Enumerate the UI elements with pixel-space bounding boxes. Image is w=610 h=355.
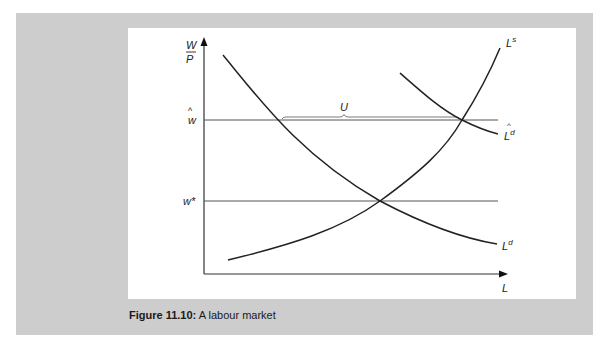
unemployment-label: U [340,101,348,113]
figure-caption: Figure 11.10: A labour market [129,309,276,321]
hat-glyph-icon: ^ [507,121,511,130]
w-star-label: w* [183,195,196,207]
x-axis-label: L [502,282,508,294]
demand-hat-curve-label: Ld [504,128,515,142]
supply-curve-label: Ls [506,35,516,49]
y-axis-label-p: P [186,53,194,65]
axes [201,37,509,278]
demand-curve-label: Ld [502,238,513,252]
x-axis-arrow-icon [499,271,508,278]
unemployment-brace [282,115,460,120]
figure-caption-label: Figure 11.10: [129,309,196,321]
labour-market-diagram: W P L w ^ w* U Ld Ld ^ Ls [0,0,610,355]
y-axis-label-w: W [186,39,198,51]
supply-curve [228,48,500,260]
figure-caption-text: A labour market [196,309,276,321]
y-axis-arrow-icon [201,37,208,46]
demand-curve [223,55,497,244]
